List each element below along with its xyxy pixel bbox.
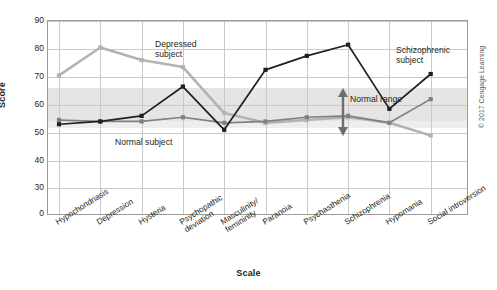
data-point-marker	[305, 54, 309, 58]
data-point-marker	[263, 119, 267, 123]
data-point-marker	[181, 65, 185, 69]
y-axis-tick-label: 70	[4, 72, 44, 81]
y-axis-title: Score	[0, 82, 7, 108]
mmpi-profile-chart: 908070605040300 Score HypochondriasisDep…	[0, 0, 497, 290]
copyright-notice: © 2017 Cengage Learning	[478, 46, 485, 128]
x-axis-ticks: HypochondriasisDepressionHysteriaPsychop…	[0, 219, 497, 269]
y-axis-tick-label: 0	[4, 209, 44, 218]
data-point-marker	[181, 115, 185, 119]
data-point-marker	[387, 107, 391, 111]
y-axis-tick-label: 30	[4, 183, 44, 192]
data-point-marker	[98, 119, 102, 123]
x-axis-title: Scale	[0, 268, 497, 278]
data-point-marker	[346, 43, 350, 47]
data-point-marker	[140, 114, 144, 118]
data-point-marker	[222, 111, 226, 115]
data-point-marker	[305, 115, 309, 119]
y-axis-tick-label: 80	[4, 44, 44, 53]
depressed-subject-label: Depressed subject	[155, 39, 197, 60]
data-point-marker	[57, 118, 61, 122]
data-point-marker	[140, 58, 144, 62]
normal-subject-label: Normal subject	[115, 137, 172, 147]
data-point-marker	[140, 119, 144, 123]
normal-range-label: Normal range	[350, 94, 402, 104]
y-axis-tick-label: 50	[4, 128, 44, 137]
data-point-marker	[181, 84, 185, 88]
data-point-marker	[429, 97, 433, 101]
data-point-marker	[429, 133, 433, 137]
data-point-marker	[222, 121, 226, 125]
data-point-marker	[98, 45, 102, 49]
y-axis-tick-label: 60	[4, 100, 44, 109]
y-axis-tick-label: 90	[4, 16, 44, 25]
normal-range-double-arrow-icon	[336, 88, 350, 136]
data-point-marker	[57, 122, 61, 126]
schizophrenic-subject-label: Schizophrenic subject	[396, 45, 450, 66]
data-point-marker	[57, 73, 61, 77]
y-axis-tick-label: 40	[4, 156, 44, 165]
data-point-marker	[263, 68, 267, 72]
data-point-marker	[429, 72, 433, 76]
y-axis-ticks: 908070605040300	[0, 0, 44, 230]
data-point-marker	[387, 121, 391, 125]
data-point-marker	[222, 128, 226, 132]
